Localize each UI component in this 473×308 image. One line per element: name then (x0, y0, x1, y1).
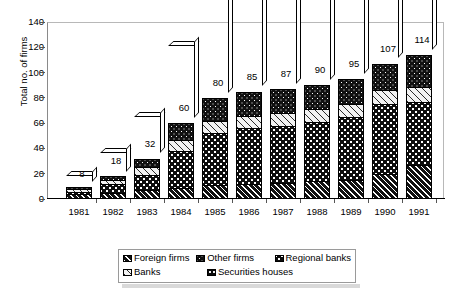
value-label-1989: 95 (334, 59, 374, 69)
bar-segment-banks (134, 167, 160, 175)
legend-swatch-regional-banks-icon (275, 255, 284, 262)
bar-segment-regional-banks (202, 133, 228, 185)
bar-segment-banks (168, 140, 194, 151)
bar-stack (304, 85, 330, 199)
x-tick-label-1991: 1991 (399, 207, 439, 217)
x-tick-mark (368, 199, 369, 203)
y-tick-20: 20 (0, 169, 44, 179)
y-tick-140: 140 (0, 17, 44, 27)
x-tick-mark (300, 199, 301, 203)
bar-segment-foreign-firms (236, 184, 262, 199)
y-tick-60: 60 (0, 118, 44, 128)
x-tick-mark (334, 199, 335, 203)
bar-segment-regional-banks (304, 122, 330, 181)
y-tick-0: 0 (0, 194, 44, 204)
bar-segment-other-firms (202, 98, 228, 121)
bar-segment-other-firms (338, 79, 364, 104)
y-tick-100: 100 (0, 68, 44, 78)
bar-segment-foreign-firms (66, 194, 92, 199)
x-tick-mark (198, 199, 199, 203)
bar-segment-other-firms (304, 85, 330, 109)
bar-segment-foreign-firms (338, 180, 364, 199)
bar-stack (338, 79, 364, 199)
legend-item-securities-houses[interactable]: Securities houses (207, 267, 297, 277)
y-tick-mark (40, 199, 45, 200)
bar-segment-other-firms (236, 92, 262, 116)
x-tick-mark (402, 199, 403, 203)
legend-item-regional-banks[interactable]: Regional banks (275, 253, 352, 263)
chart-legend: Foreign firms Other firms Regional banks… (118, 249, 356, 283)
legend-label: Foreign firms (134, 253, 189, 263)
y-tick-80: 80 (0, 93, 44, 103)
bar-segment-regional-banks (406, 102, 432, 165)
value-label-1983: 32 (130, 139, 170, 149)
bar-segment-banks (304, 109, 330, 122)
bar-segment-banks (372, 90, 398, 104)
bar-segment-foreign-firms (270, 183, 296, 199)
y-tick-40: 40 (0, 143, 44, 153)
value-label-1990: 107 (368, 44, 408, 54)
bar-segment-foreign-firms (134, 190, 160, 199)
legend-item-banks[interactable]: Banks (123, 267, 207, 277)
x-tick-mark (164, 199, 165, 203)
legend-item-foreign-firms[interactable]: Foreign firms (123, 253, 196, 263)
legend-swatch-foreign-firms-icon (123, 255, 132, 262)
bar-stack (406, 55, 432, 199)
value-label-1981: 8 (62, 169, 102, 179)
legend-swatch-other-firms-icon (196, 255, 205, 262)
bar-segment-foreign-firms (406, 165, 432, 199)
bar-segment-foreign-firms (372, 174, 398, 199)
legend-item-other-firms[interactable]: Other firms (196, 253, 274, 263)
bar-stack (100, 176, 126, 199)
chart-screenshot: Total no. of firms 140120100806040200 19… (0, 0, 473, 308)
bar-segment-regional-banks (270, 126, 296, 183)
bar-segment-regional-banks (372, 104, 398, 174)
x-tick-mark (96, 199, 97, 203)
y-tick-mark (40, 22, 45, 23)
bar-segment-other-firms (372, 64, 398, 91)
y-tick-mark (40, 123, 45, 124)
bar-segment-regional-banks (338, 117, 364, 180)
bar-segment-other-firms (168, 123, 194, 139)
legend-shadow (122, 284, 360, 288)
bar-segment-foreign-firms (304, 181, 330, 199)
value-label-1982: 18 (96, 156, 136, 166)
legend-label: Regional banks (286, 253, 352, 263)
bar-segment-regional-banks (236, 128, 262, 184)
y-tick-mark (40, 148, 45, 149)
bar-segment-banks (236, 116, 262, 129)
y-tick-mark (40, 97, 45, 98)
y-tick-mark (40, 72, 45, 73)
bar-segment-banks (406, 87, 432, 102)
y-tick-mark (40, 47, 45, 48)
bar-segment-other-firms (406, 55, 432, 87)
bar-stack (202, 98, 228, 199)
y-tick-mark (40, 173, 45, 174)
bar-stack (66, 187, 92, 199)
bar-stack (134, 159, 160, 199)
bar-segment-banks (338, 104, 364, 117)
legend-row-2: Banks Securities houses (123, 267, 351, 281)
legend-row-1: Foreign firms Other firms Regional banks (123, 253, 351, 267)
value-label-1991: 114 (402, 35, 442, 45)
bar-segment-regional-banks (134, 175, 160, 190)
bar-stack (270, 89, 296, 199)
bar-stack (168, 123, 194, 199)
bar-segment-foreign-firms (100, 193, 126, 199)
x-tick-mark (266, 199, 267, 203)
bar-stack (236, 92, 262, 199)
legend-label: Banks (134, 267, 160, 277)
value-label-1984: 60 (164, 103, 204, 113)
legend-swatch-securities-houses-icon (207, 269, 216, 276)
bar-segment-regional-banks (168, 151, 194, 188)
bar-segment-banks (202, 121, 228, 134)
y-tick-120: 120 (0, 42, 44, 52)
x-tick-mark (232, 199, 233, 203)
bar-segment-foreign-firms (202, 185, 228, 199)
x-tick-mark (436, 199, 437, 203)
bar-segment-other-firms (270, 89, 296, 113)
bar-segment-regional-banks (100, 184, 126, 193)
x-tick-mark (130, 199, 131, 203)
legend-label: Securities houses (218, 267, 293, 277)
bar-stack (372, 64, 398, 199)
